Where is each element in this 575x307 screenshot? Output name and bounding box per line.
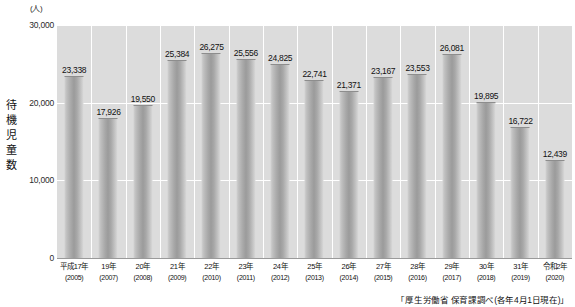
bar-slot: 25,556 <box>229 25 263 258</box>
bar-slot: 19,550 <box>126 25 160 258</box>
bar[interactable] <box>99 118 118 258</box>
bar-slot: 26,275 <box>194 25 228 258</box>
bar-value-label: 23,167 <box>371 66 395 76</box>
x-tick-era: 令和2年 <box>532 261 575 272</box>
bar-value-label: 23,338 <box>62 65 86 75</box>
bar[interactable] <box>168 60 187 258</box>
bar-slot: 21,371 <box>332 25 366 258</box>
y-tick-label: 0 <box>6 253 54 263</box>
bar-value-label: 19,550 <box>131 94 155 104</box>
y-tick-label: 10,000 <box>6 175 54 185</box>
bar-value-label: 16,722 <box>508 116 532 126</box>
x-axis-baseline <box>57 258 572 259</box>
bar-slot: 24,825 <box>263 25 297 258</box>
bar-slot: 23,553 <box>400 25 434 258</box>
bar[interactable] <box>545 160 564 258</box>
bar-value-label: 21,371 <box>337 80 361 90</box>
bar[interactable] <box>408 74 427 258</box>
bar-value-label: 23,553 <box>405 63 429 73</box>
bar-slot: 19,895 <box>469 25 503 258</box>
y-tick-label: 20,000 <box>6 98 54 108</box>
bars-layer: 23,33817,92619,55025,38426,27525,55624,8… <box>57 25 572 258</box>
source-note: 「厚生労働省 保育課調べ(各年4月1日現在)」 <box>396 293 569 305</box>
x-axis-tick-labels: 平成17年(2005)19年(2007)20年(2008)21年(2009)22… <box>57 261 572 291</box>
bar-slot: 22,741 <box>297 25 331 258</box>
bar[interactable] <box>271 64 290 258</box>
bar[interactable] <box>305 80 324 258</box>
bar-slot: 17,926 <box>91 25 125 258</box>
bar[interactable] <box>133 105 152 258</box>
x-tick-western-year: (2020) <box>532 272 575 283</box>
bar[interactable] <box>202 53 221 258</box>
waiting-children-bar-chart: (人) 待 機 児 童 数 010,00020,00030,000 23,338… <box>0 0 575 307</box>
bar-value-label: 26,275 <box>199 42 223 52</box>
bar[interactable] <box>442 54 461 258</box>
bar-value-label: 17,926 <box>96 107 120 117</box>
bar-value-label: 12,439 <box>543 149 567 159</box>
bar[interactable] <box>511 127 530 258</box>
bar-value-label: 25,384 <box>165 49 189 59</box>
bar-slot: 26,081 <box>435 25 469 258</box>
bar[interactable] <box>374 77 393 258</box>
bar-value-label: 26,081 <box>440 43 464 53</box>
bar-value-label: 25,556 <box>234 48 258 58</box>
x-tick-label: 令和2年(2020) <box>532 261 575 283</box>
bar-slot: 25,384 <box>160 25 194 258</box>
bar[interactable] <box>339 91 358 258</box>
y-tick-label: 30,000 <box>6 20 54 30</box>
bar-slot: 12,439 <box>538 25 572 258</box>
bar[interactable] <box>236 59 255 258</box>
bar-value-label: 24,825 <box>268 53 292 63</box>
bar-slot: 23,167 <box>366 25 400 258</box>
bar[interactable] <box>65 76 84 258</box>
bar[interactable] <box>477 102 496 258</box>
y-axis-tick-labels: 010,00020,00030,000 <box>0 0 54 307</box>
bar-value-label: 19,895 <box>474 91 498 101</box>
bar-slot: 23,338 <box>57 25 91 258</box>
bar-value-label: 22,741 <box>302 69 326 79</box>
bar-slot: 16,722 <box>503 25 537 258</box>
